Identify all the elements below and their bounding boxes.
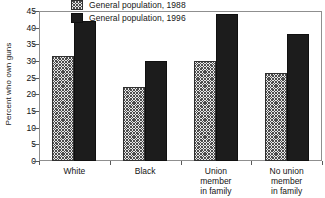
y-tick-mark — [33, 28, 39, 29]
bar-1988 — [265, 73, 287, 161]
x-category-label: No union member in family — [252, 166, 322, 196]
x-category-label: Black — [110, 166, 180, 176]
bar-1988 — [123, 87, 145, 161]
y-tick-mark — [33, 61, 39, 62]
legend-item-1996: General population, 1996 — [71, 13, 186, 23]
bar-1988 — [194, 61, 216, 161]
legend-item-1988: General population, 1988 — [71, 0, 186, 10]
x-axis-category-labels: WhiteBlackUnion member in familyNo union… — [39, 166, 322, 198]
x-tick-mark — [39, 161, 40, 165]
x-tick-mark — [251, 161, 252, 165]
x-tick-mark — [181, 161, 182, 165]
y-tick-mark — [33, 11, 39, 12]
y-axis-title: Percent who own guns — [2, 4, 16, 164]
y-tick-mark — [33, 111, 39, 112]
x-category-label: Union member in family — [181, 166, 251, 196]
y-tick-mark — [33, 44, 39, 45]
x-tick-mark — [322, 161, 323, 165]
plot-area — [39, 11, 322, 161]
x-category-label: White — [39, 166, 109, 176]
bar-1996 — [216, 14, 238, 161]
x-tick-mark — [110, 161, 111, 165]
legend-swatch-1988-icon — [71, 0, 83, 10]
bar-1996 — [74, 21, 96, 161]
chart-legend: General population, 1988 General populat… — [71, 0, 186, 23]
y-axis-tick-labels: 051015202530354045 — [16, 0, 36, 198]
legend-label-1988: General population, 1988 — [89, 0, 186, 10]
y-tick-mark — [33, 144, 39, 145]
bar-1988 — [52, 56, 74, 161]
legend-label-1996: General population, 1996 — [89, 13, 186, 23]
y-tick-mark — [33, 94, 39, 95]
bar-1996 — [145, 61, 167, 161]
bar-chart: Percent who own guns 051015202530354045 … — [0, 0, 325, 198]
bar-1996 — [287, 34, 309, 161]
y-tick-mark — [33, 78, 39, 79]
y-tick-mark — [33, 128, 39, 129]
legend-swatch-1996-icon — [71, 13, 83, 23]
